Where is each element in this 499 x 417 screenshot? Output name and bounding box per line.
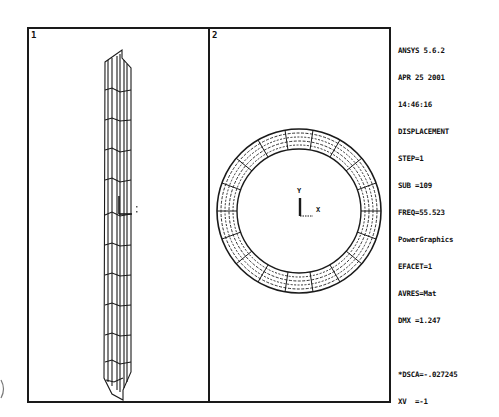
legend-line: ANSYS 5.6.2	[398, 46, 498, 55]
legend-line: APR 25 2001	[398, 73, 498, 82]
legend-line: SUB =109	[398, 181, 498, 190]
legend-line: FREQ=55.523	[398, 208, 498, 217]
legend-line: PowerGraphics	[398, 235, 498, 244]
triad-y-label: Y	[297, 187, 301, 195]
legend-line: XV =-1	[398, 397, 498, 406]
legend-panel: ANSYS 5.6.2 APR 25 2001 14:46:16 DISPLAC…	[398, 28, 498, 417]
edge-mark	[0, 378, 8, 400]
legend-line: EFACET=1	[398, 262, 498, 271]
legend-line: STEP=1	[398, 154, 498, 163]
legend-line: *DSCA=-.027245	[398, 370, 498, 379]
legend-line: 14:46:16	[398, 100, 498, 109]
legend-gap	[398, 343, 498, 352]
legend-line: DMX =1.247	[398, 316, 498, 325]
legend-line: AVRES=Mat	[398, 289, 498, 298]
legend-line: DISPLACEMENT	[398, 127, 498, 136]
triad-x-label: X	[316, 206, 320, 214]
